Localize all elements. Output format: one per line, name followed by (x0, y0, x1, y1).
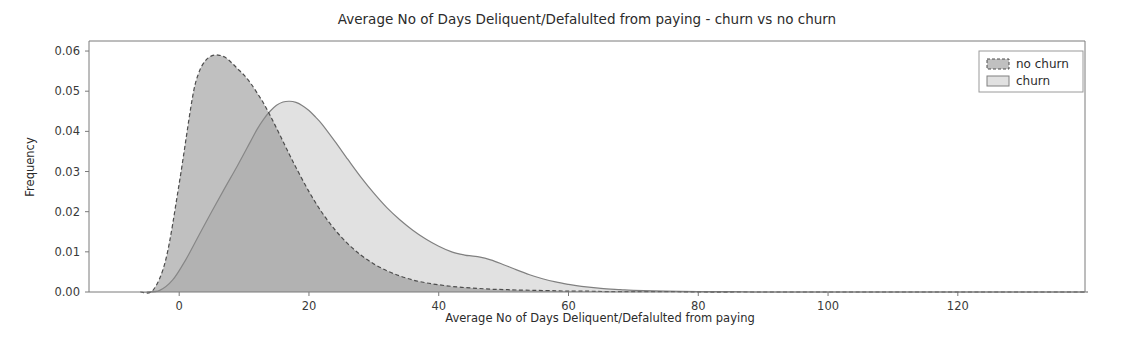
y-tick-label: 0.05 (54, 84, 80, 98)
y-axis-title: Frequency (23, 137, 37, 197)
y-tick-label: 0.01 (54, 245, 80, 259)
x-axis-ticks: 020406080100120 (176, 292, 969, 313)
legend[interactable]: no churnchurn (979, 51, 1083, 92)
x-tick-label: 100 (817, 299, 839, 313)
y-tick-label: 0.03 (54, 165, 80, 179)
legend-swatch-no-churn (987, 59, 1009, 69)
x-tick-label: 80 (691, 299, 706, 313)
legend-label-churn: churn (1016, 74, 1050, 88)
x-axis-title: Average No of Days Deliquent/Defalulted … (445, 311, 755, 325)
x-tick-label: 0 (176, 299, 183, 313)
y-axis-ticks: 0.000.010.020.030.040.050.06 (54, 44, 89, 299)
x-tick-label: 120 (947, 299, 969, 313)
legend-label-no-churn: no churn (1016, 57, 1069, 71)
figure-canvas: Average No of Days Deliquent/Defalulted … (0, 0, 1126, 338)
chart-title: Average No of Days Deliquent/Defalulted … (338, 11, 836, 27)
x-tick-label: 40 (431, 299, 446, 313)
legend-swatch-churn (987, 76, 1009, 86)
y-tick-label: 0.06 (54, 44, 80, 58)
x-tick-label: 60 (561, 299, 576, 313)
x-tick-label: 20 (302, 299, 317, 313)
y-tick-label: 0.02 (54, 205, 80, 219)
kde-distribution-plot: Average No of Days Deliquent/Defalulted … (0, 0, 1126, 338)
y-tick-label: 0.00 (54, 285, 80, 299)
y-tick-label: 0.04 (54, 124, 80, 138)
